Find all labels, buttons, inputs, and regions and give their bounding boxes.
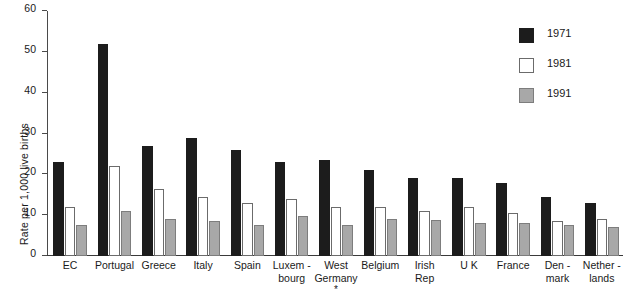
legend: 197119811991 xyxy=(519,26,615,116)
legend-label: 1971 xyxy=(547,27,571,39)
bar xyxy=(585,203,596,256)
bar xyxy=(464,207,475,256)
legend-item: 1971 xyxy=(519,26,615,56)
bar xyxy=(564,225,575,256)
bar xyxy=(496,183,507,257)
bar xyxy=(275,162,286,256)
legend-item: 1991 xyxy=(519,86,615,116)
legend-swatch xyxy=(519,28,534,43)
plot-area: 0102030405060 xyxy=(47,11,419,256)
y-tick-label: 10 xyxy=(24,206,36,218)
bar-group xyxy=(92,11,136,256)
y-tick-mark xyxy=(42,10,47,11)
bar xyxy=(142,146,153,256)
y-tick: 10 xyxy=(3,214,47,215)
bar xyxy=(597,219,608,256)
bar xyxy=(121,211,132,256)
bar xyxy=(608,227,619,256)
y-tick-mark xyxy=(42,214,47,215)
legend-swatch xyxy=(519,88,534,103)
bar-group xyxy=(181,11,225,256)
bar xyxy=(154,189,165,256)
y-tick-mark xyxy=(42,51,47,52)
bar xyxy=(519,223,530,256)
legend-label: 1981 xyxy=(547,57,571,69)
bar xyxy=(331,207,342,256)
x-axis-category-labels: ECPortugalGreeceItalySpainLuxem - bourgW… xyxy=(48,259,623,298)
bar xyxy=(431,220,442,256)
bar xyxy=(65,207,76,256)
legend-item: 1981 xyxy=(519,56,615,86)
bar xyxy=(165,219,176,256)
bar xyxy=(419,211,430,256)
bar xyxy=(53,162,64,256)
bar xyxy=(98,44,109,256)
bar xyxy=(286,199,297,256)
x-category-label: Nether - lands xyxy=(572,259,623,285)
y-tick-label: 30 xyxy=(24,125,36,137)
bar-chart: Rate per 1,000 live births 0102030405060… xyxy=(0,0,623,298)
y-tick-mark xyxy=(42,255,47,256)
y-tick-mark xyxy=(42,92,47,93)
bar xyxy=(364,170,375,256)
y-tick-mark xyxy=(42,133,47,134)
bar xyxy=(209,221,220,256)
bar-group xyxy=(402,11,446,256)
bar-group xyxy=(270,11,314,256)
bar xyxy=(319,160,330,256)
bar xyxy=(408,178,419,256)
bar-group xyxy=(48,11,92,256)
legend-swatch xyxy=(519,58,534,73)
bar xyxy=(541,197,552,256)
bar xyxy=(387,219,398,256)
bar xyxy=(475,223,486,256)
bar xyxy=(508,213,519,256)
category-footnote-marker: * xyxy=(306,285,366,294)
bar-group xyxy=(137,11,181,256)
y-tick-mark xyxy=(42,173,47,174)
y-tick: 40 xyxy=(3,92,47,93)
bar xyxy=(231,150,242,256)
bar xyxy=(552,221,563,256)
bar xyxy=(452,178,463,256)
y-tick-label: 20 xyxy=(24,165,36,177)
y-tick-label: 50 xyxy=(24,43,36,55)
y-tick: 60 xyxy=(3,10,47,11)
bar xyxy=(242,203,253,256)
bar-group xyxy=(225,11,269,256)
y-tick-label: 60 xyxy=(24,2,36,14)
bar xyxy=(342,225,353,256)
bar xyxy=(186,138,197,256)
y-tick-label: 0 xyxy=(30,247,36,259)
y-tick-label: 40 xyxy=(24,84,36,96)
y-tick: 0 xyxy=(3,255,47,256)
y-tick: 20 xyxy=(3,173,47,174)
bar-group xyxy=(447,11,491,256)
bar xyxy=(76,225,87,256)
y-tick: 30 xyxy=(3,133,47,134)
bar xyxy=(198,197,209,256)
bar-group xyxy=(358,11,402,256)
bar xyxy=(375,207,386,256)
bar xyxy=(109,166,120,256)
bar xyxy=(298,216,309,256)
bar-group xyxy=(314,11,358,256)
legend-label: 1991 xyxy=(547,87,571,99)
y-tick: 50 xyxy=(3,51,47,52)
bar xyxy=(254,225,265,256)
